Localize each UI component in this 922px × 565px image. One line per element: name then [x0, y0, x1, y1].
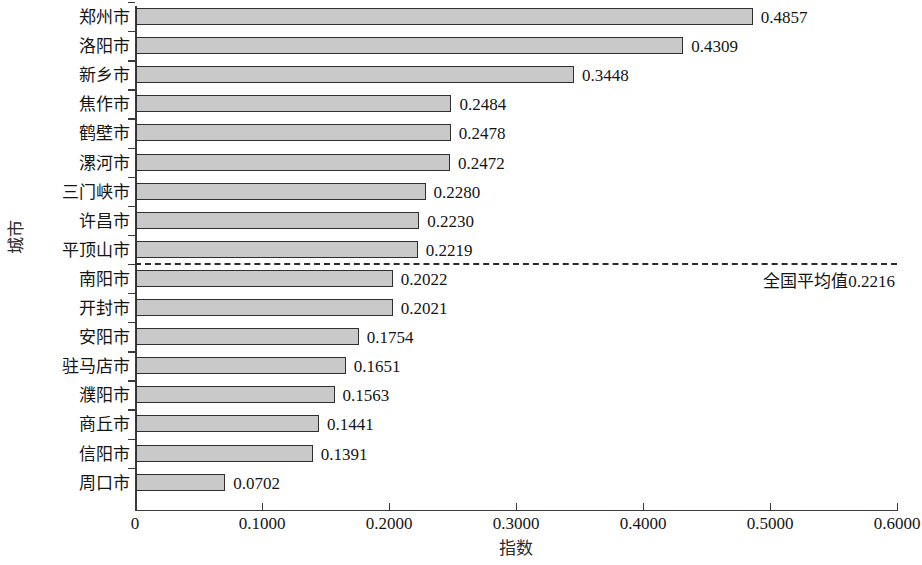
x-axis-tick-label: 0.5000: [747, 515, 794, 532]
y-axis-tick: [128, 439, 135, 440]
x-axis-tick: [643, 503, 644, 511]
bar-value-label: 0.4309: [691, 38, 738, 55]
bar-value-label: 0.2484: [459, 96, 506, 113]
bar-value-label: 0.2280: [434, 184, 481, 201]
bar: [136, 8, 753, 25]
bar: [136, 328, 359, 345]
y-axis-tick: [128, 31, 135, 32]
category-label: 平顶山市: [18, 242, 130, 259]
y-axis-tick: [128, 60, 135, 61]
category-label: 焦作市: [18, 96, 130, 113]
category-label: 濮阳市: [18, 387, 130, 404]
bar: [136, 270, 393, 287]
y-axis-tick: [128, 351, 135, 352]
y-axis-tick: [128, 409, 135, 410]
category-label: 洛阳市: [18, 38, 130, 55]
bar: [136, 212, 419, 229]
x-axis-tick-label: 0.1000: [239, 515, 286, 532]
bar: [136, 357, 346, 374]
y-axis-tick: [128, 2, 135, 3]
bar-value-label: 0.4857: [761, 9, 808, 26]
x-axis-tick: [262, 503, 263, 511]
bar-value-label: 0.2219: [426, 242, 473, 259]
y-axis-tick: [128, 380, 135, 381]
bar-value-label: 0.1651: [354, 358, 401, 375]
bar: [136, 415, 319, 432]
bar-value-label: 0.1441: [327, 416, 374, 433]
y-axis-tick: [128, 118, 135, 119]
y-axis-tick: [128, 322, 135, 323]
plot-area: 0.48570.43090.34480.24840.24780.24720.22…: [135, 0, 897, 511]
y-axis-tick: [128, 148, 135, 149]
bar: [136, 183, 426, 200]
bar-value-label: 0.1754: [367, 329, 414, 346]
bar-value-label: 0.2021: [401, 300, 448, 317]
category-label: 许昌市: [18, 213, 130, 230]
bar: [136, 241, 418, 258]
x-axis-tick-label: 0: [131, 515, 140, 532]
bar-value-label: 0.2022: [401, 271, 448, 288]
x-axis-tick: [389, 503, 390, 511]
category-label: 郑州市: [18, 9, 130, 26]
bar-value-label: 0.0702: [233, 475, 280, 492]
bar: [136, 474, 225, 491]
category-label: 信阳市: [18, 446, 130, 463]
bar: [136, 445, 313, 462]
x-axis-title: 指数: [135, 540, 897, 557]
bar-value-label: 0.2478: [459, 125, 506, 142]
x-axis-tick: [770, 503, 771, 511]
y-axis-tick: [128, 264, 135, 265]
bar: [136, 386, 335, 403]
y-axis-tick: [128, 293, 135, 294]
national-average-line: [135, 263, 897, 265]
category-label: 驻马店市: [18, 358, 130, 375]
bar: [136, 299, 393, 316]
x-axis-tick-label: 0.4000: [620, 515, 667, 532]
x-axis-tick-label: 0.3000: [493, 515, 540, 532]
bar: [136, 37, 683, 54]
y-axis-tick: [128, 89, 135, 90]
bar-value-label: 0.3448: [582, 67, 629, 84]
y-axis-tick: [128, 177, 135, 178]
bar-chart: 城市 郑州市洛阳市新乡市焦作市鹤壁市漯河市三门峡市许昌市平顶山市南阳市开封市安阳…: [0, 0, 922, 565]
bar-value-label: 0.1391: [321, 446, 368, 463]
national-average-label: 全国平均值0.2216: [763, 273, 895, 290]
category-label: 三门峡市: [18, 184, 130, 201]
x-axis-tick: [516, 503, 517, 511]
bar: [136, 154, 450, 171]
category-label: 商丘市: [18, 416, 130, 433]
x-axis-tick-label: 0.6000: [874, 515, 921, 532]
bar: [136, 124, 451, 141]
category-label: 安阳市: [18, 329, 130, 346]
category-label: 南阳市: [18, 271, 130, 288]
x-axis-tick-label: 0.2000: [366, 515, 413, 532]
category-label: 新乡市: [18, 67, 130, 84]
y-axis-tick: [128, 206, 135, 207]
bar-value-label: 0.2230: [427, 213, 474, 230]
category-label: 周口市: [18, 475, 130, 492]
bar: [136, 66, 574, 83]
bar-value-label: 0.2472: [458, 155, 505, 172]
y-axis-tick: [128, 468, 135, 469]
bar-value-label: 0.1563: [343, 387, 390, 404]
category-label: 鹤壁市: [18, 125, 130, 142]
x-axis-tick: [897, 503, 898, 511]
category-axis-labels: 郑州市洛阳市新乡市焦作市鹤壁市漯河市三门峡市许昌市平顶山市南阳市开封市安阳市驻马…: [18, 0, 130, 510]
bar: [136, 95, 451, 112]
category-label: 开封市: [18, 300, 130, 317]
y-axis-tick: [128, 235, 135, 236]
category-label: 漯河市: [18, 155, 130, 172]
